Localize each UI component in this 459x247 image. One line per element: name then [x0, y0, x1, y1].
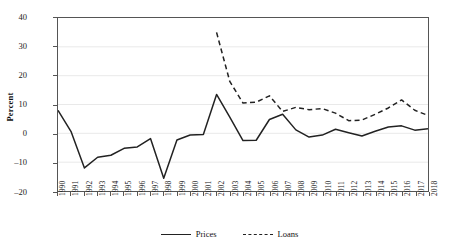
- x-axis-tick-label-text: 2002: [218, 181, 226, 196]
- x-axis-tick-label-text: 2009: [311, 181, 319, 196]
- x-axis-tick-mark: [57, 192, 58, 196]
- x-axis-tick-mark: [256, 192, 257, 196]
- series-line-loans: [217, 32, 428, 120]
- x-axis-tick-label-text: 2004: [245, 181, 253, 196]
- x-axis-tick-label-text: 2000: [192, 181, 200, 196]
- x-axis-tick-label-text: 2011: [338, 181, 346, 196]
- legend-label: Loans: [278, 229, 299, 239]
- x-axis-tick-mark: [70, 192, 71, 196]
- x-axis-tick-label-text: 2007: [285, 181, 293, 196]
- series-line-prices: [58, 94, 428, 178]
- x-axis-tick-label-text: 1995: [125, 181, 133, 196]
- x-axis-tick-label-text: 2003: [232, 181, 240, 196]
- x-axis-tick-mark: [216, 192, 217, 196]
- x-axis-tick-mark: [163, 192, 164, 196]
- x-axis-tick-label-text: 2010: [325, 181, 333, 196]
- x-axis-tick-label-text: 1991: [72, 181, 80, 196]
- x-axis-tick-label-text: 2006: [272, 181, 280, 196]
- y-axis-tick-label: –20: [1, 188, 27, 197]
- x-axis-tick-label-text: 1999: [179, 181, 187, 196]
- x-axis-tick-label-text: 2018: [431, 181, 439, 196]
- x-axis-tick-label-text: 2017: [418, 181, 426, 196]
- x-axis-tick-mark: [110, 192, 111, 196]
- x-axis-tick-mark: [84, 192, 85, 196]
- x-axis-tick-label-text: 1992: [86, 181, 94, 196]
- x-axis-tick-mark: [177, 192, 178, 196]
- x-axis-tick-mark: [270, 192, 271, 196]
- x-axis-tick-mark: [389, 192, 390, 196]
- x-axis-tick-label-text: 2005: [258, 181, 266, 196]
- x-axis-tick-label-text: 1993: [99, 181, 107, 196]
- x-axis-tick-label-text: 1996: [139, 181, 147, 196]
- x-axis-tick-label-text: 2013: [365, 181, 373, 196]
- x-axis-tick-mark: [283, 192, 284, 196]
- x-axis-tick-label-text: 2008: [298, 181, 306, 196]
- y-axis-tick-label: 0: [1, 129, 27, 138]
- x-axis-tick-mark: [123, 192, 124, 196]
- x-axis-tick-label-text: 1994: [112, 181, 120, 196]
- legend-item-loans: Loans: [243, 229, 299, 239]
- x-axis-tick-mark: [309, 192, 310, 196]
- y-axis-tick-label: –10: [1, 158, 27, 167]
- x-axis-tick-mark: [296, 192, 297, 196]
- legend-item-prices: Prices: [161, 229, 217, 239]
- x-axis-tick-mark: [97, 192, 98, 196]
- x-axis-tick-mark: [137, 192, 138, 196]
- x-axis-tick-mark: [150, 192, 151, 196]
- x-axis-tick-label-text: 2001: [205, 181, 213, 196]
- x-axis-tick-label-text: 1997: [152, 181, 160, 196]
- y-axis-tick-label: 40: [1, 13, 27, 22]
- x-axis-tick-mark: [203, 192, 204, 196]
- x-axis-tick-mark: [243, 192, 244, 196]
- y-axis-tick-label: 20: [1, 71, 27, 80]
- legend-label: Prices: [196, 229, 217, 239]
- x-axis-tick-mark: [190, 192, 191, 196]
- x-axis-tick-label-text: 2012: [351, 181, 359, 196]
- x-axis-tick-label-text: 1998: [165, 181, 173, 196]
- line-chart-figure: Percent 403020100–10–20 1990199119921993…: [0, 0, 459, 247]
- x-axis-tick-mark: [336, 192, 337, 196]
- x-axis-tick-label-text: 2015: [391, 181, 399, 196]
- x-axis-tick-mark: [323, 192, 324, 196]
- y-axis-tick-label: 30: [1, 42, 27, 51]
- legend-swatch-solid: [161, 234, 191, 235]
- x-axis-tick-mark: [376, 192, 377, 196]
- chart-legend: PricesLoans: [0, 225, 459, 243]
- x-axis-tick-label-text: 2014: [378, 181, 386, 196]
- x-axis-tick-label-text: 1990: [59, 181, 67, 196]
- legend-swatch-dashed: [243, 234, 273, 235]
- x-axis-tick-mark: [349, 192, 350, 196]
- x-axis-tick-mark: [429, 192, 430, 196]
- x-axis-tick-mark: [230, 192, 231, 196]
- x-axis-tick-label-text: 2016: [404, 181, 412, 196]
- x-axis-tick-mark: [416, 192, 417, 196]
- y-axis-tick-label: 10: [1, 100, 27, 109]
- plot-area: [57, 17, 429, 192]
- x-axis-tick-mark: [363, 192, 364, 196]
- data-series-lines: [58, 18, 428, 191]
- x-axis-tick-mark: [402, 192, 403, 196]
